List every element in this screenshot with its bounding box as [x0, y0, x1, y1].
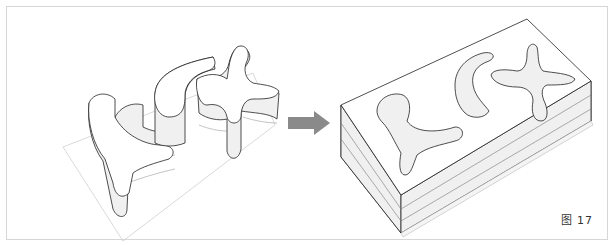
right-arrow-icon [286, 111, 332, 135]
extruded-walls-model [57, 33, 287, 243]
figure-frame: 图 17 [6, 6, 608, 240]
figure-label: 图 17 [561, 211, 594, 227]
